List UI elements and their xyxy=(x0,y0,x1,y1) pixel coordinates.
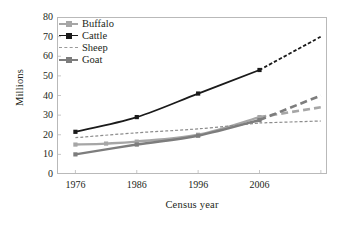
legend-marker xyxy=(66,57,72,63)
legend-marker xyxy=(66,33,72,39)
y-tick-label-0: 0 xyxy=(27,169,53,179)
data-point-marker xyxy=(257,68,261,72)
legend-swatch-sheep-icon xyxy=(59,42,78,53)
legend-swatch-cattle-icon xyxy=(59,30,78,41)
y-tick-label-60: 60 xyxy=(27,51,53,61)
series-line-projected xyxy=(260,107,321,117)
legend-item-buffalo: Buffalo xyxy=(59,18,139,30)
data-point-marker xyxy=(135,115,139,119)
legend-label: Cattle xyxy=(82,30,107,41)
series-line-projected xyxy=(260,121,321,123)
legend-item-goat: Goat xyxy=(59,54,139,66)
legend-line xyxy=(59,47,78,48)
series-line-projected xyxy=(260,37,321,70)
data-point-marker xyxy=(257,118,261,122)
legend-swatch-buffalo-icon xyxy=(59,18,78,29)
y-axis-title: Millions xyxy=(14,53,25,123)
x-tick-label-1996: 1996 xyxy=(178,180,218,190)
y-tick-label-20: 20 xyxy=(27,130,53,140)
line-chart-figure: Millions 01020304050607080 1976198619962… xyxy=(0,0,342,227)
legend-swatch-goat-icon xyxy=(59,54,78,65)
data-point-marker xyxy=(104,141,108,145)
y-tick-label-40: 40 xyxy=(27,91,53,101)
series-goat xyxy=(73,96,321,157)
legend-item-cattle: Cattle xyxy=(59,30,139,42)
legend-label: Buffalo xyxy=(82,18,114,29)
y-tick-label-80: 80 xyxy=(27,12,53,22)
y-tick-label-50: 50 xyxy=(27,71,53,81)
legend-label: Goat xyxy=(82,54,102,65)
legend-marker xyxy=(66,21,72,27)
legend-label: Sheep xyxy=(82,42,108,53)
x-tick-label-2006: 2006 xyxy=(240,180,280,190)
x-tick-label-1986: 1986 xyxy=(117,180,157,190)
x-axis-title: Census year xyxy=(57,199,327,210)
data-point-marker xyxy=(73,130,77,134)
x-tick-label-1976: 1976 xyxy=(55,180,95,190)
data-point-marker xyxy=(73,152,77,156)
chart-legend: BuffaloCattleSheepGoat xyxy=(59,18,139,66)
series-line-projected xyxy=(260,96,321,121)
data-point-marker xyxy=(196,134,200,138)
y-tick-label-10: 10 xyxy=(27,149,53,159)
x-axis-tick-labels: 1976198619962006 xyxy=(0,180,342,194)
data-point-marker xyxy=(73,142,77,146)
series-line-observed xyxy=(75,70,259,132)
data-point-marker xyxy=(135,142,139,146)
y-tick-label-70: 70 xyxy=(27,32,53,42)
y-tick-label-30: 30 xyxy=(27,110,53,120)
data-point-marker xyxy=(196,91,200,95)
legend-item-sheep: Sheep xyxy=(59,42,139,54)
series-buffalo xyxy=(73,107,321,146)
